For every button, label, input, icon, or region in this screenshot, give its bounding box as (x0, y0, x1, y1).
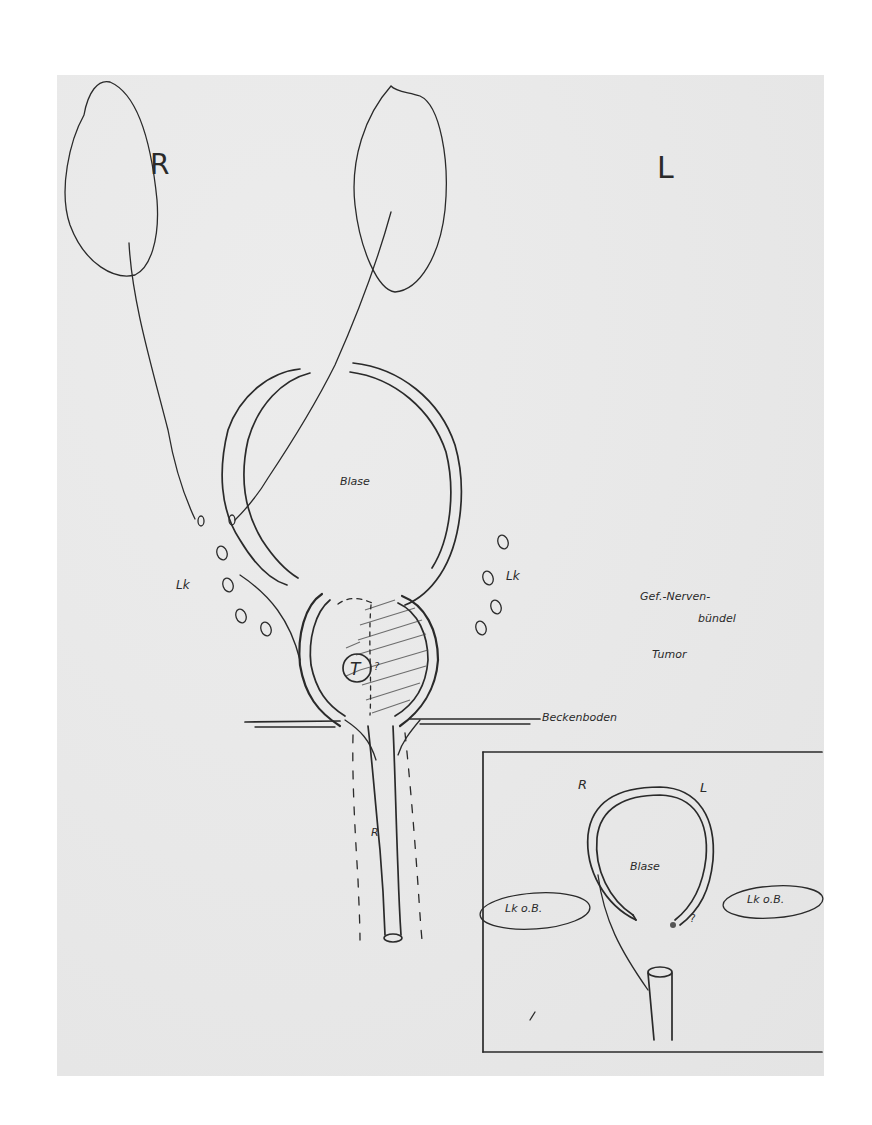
neurovascular-bundle-label-2: bündel (698, 612, 736, 625)
sketch-drawing: T ? (0, 0, 872, 1125)
left-kidney-label: L (657, 150, 674, 185)
prostate: T ? (299, 594, 438, 726)
inset-spot (670, 922, 676, 928)
svg-text:?: ? (374, 661, 380, 672)
right-kidney-label: R (150, 148, 169, 181)
lymph-nodes-right (474, 534, 510, 637)
right-ureter (129, 243, 195, 519)
inset-lymph-left-label: Lk o.B. (505, 902, 542, 915)
lymph-nodes-label-left: Lk (176, 578, 190, 592)
left-kidney (354, 86, 446, 292)
right-ureter-orifice (198, 516, 204, 526)
neurovascular-bundle-label-1: Gef.-Nerven- (640, 590, 710, 603)
tumor-marker: T (350, 659, 362, 679)
urethra (345, 720, 422, 942)
lymph-nodes-left (215, 545, 300, 660)
inset-left-label: L (700, 780, 707, 795)
right-kidney (65, 82, 157, 276)
bladder-label: Blase (340, 475, 370, 488)
tumor-label: Tumor (652, 648, 687, 661)
inset-right-label: R (578, 777, 587, 792)
urethra-label: R (371, 826, 379, 839)
inset-lymph-right-label: Lk o.B. (747, 893, 784, 906)
inset-bladder-label: Blase (630, 860, 660, 873)
lymph-nodes-label-right: Lk (506, 569, 520, 583)
inset-annotation-marker: ? (690, 913, 695, 924)
pelvic-floor-label: Beckenboden (542, 711, 617, 724)
